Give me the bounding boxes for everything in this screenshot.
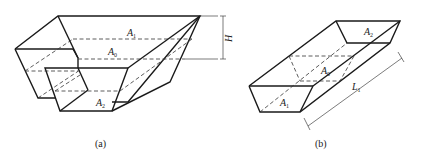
label-b-A0: A0 <box>320 65 330 77</box>
caption-b: (b) <box>315 138 327 150</box>
label-b-A2: A2 <box>363 26 373 38</box>
label-a-A0: A0 <box>107 46 117 58</box>
label-a-A2: A2 <box>95 97 105 109</box>
label-b-A1: A1 <box>279 97 289 109</box>
label-a-A1: A1 <box>126 27 136 39</box>
caption-a: (a) <box>95 138 106 150</box>
panel-a-figure <box>15 16 226 111</box>
label-a-H: H <box>223 34 234 43</box>
label-b-L1: L1 <box>351 81 361 93</box>
prismoid-diagram: A1 A0 A2 H (a) A2 A0 A1 L1 (b) <box>0 0 422 159</box>
